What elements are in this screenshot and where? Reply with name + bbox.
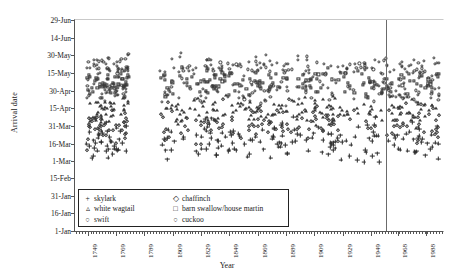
x-minor-tick <box>326 231 327 234</box>
data-point-white-wagtail <box>423 114 427 117</box>
data-point-white-wagtail <box>230 104 234 107</box>
data-point-chaffinch <box>267 122 271 126</box>
legend-item: □barn swallow/house martin <box>171 204 263 215</box>
data-point-cuckoo <box>395 89 398 92</box>
x-tick-label: 1889 <box>289 244 297 258</box>
data-point-white-wagtail <box>414 127 418 130</box>
data-point-skylark <box>209 138 213 139</box>
data-point-barn-swallow-house-martin <box>91 91 94 94</box>
x-minor-tick <box>359 231 360 234</box>
data-point-white-wagtail <box>314 123 318 126</box>
x-minor-tick <box>85 231 86 234</box>
data-point-swift <box>290 68 293 71</box>
x-major-tick <box>371 231 372 236</box>
data-point-white-wagtail <box>197 113 201 116</box>
data-point-cuckoo <box>402 97 405 100</box>
data-point-swift <box>194 66 197 69</box>
x-minor-tick <box>150 231 151 234</box>
x-minor-tick <box>159 231 160 234</box>
x-minor-tick <box>198 231 199 234</box>
data-point-skylark <box>278 146 282 147</box>
data-point-barn-swallow-house-martin <box>219 68 222 71</box>
data-point-skylark <box>396 148 400 149</box>
data-point-skylark <box>408 131 412 132</box>
data-point-barn-swallow-house-martin <box>346 81 349 84</box>
data-point-chaffinch <box>307 127 311 131</box>
data-point-barn-swallow-house-martin <box>419 84 422 87</box>
data-point-swift <box>322 62 325 65</box>
x-minor-tick <box>328 231 329 234</box>
data-point-white-wagtail <box>223 113 227 116</box>
data-point-cuckoo <box>196 82 199 85</box>
data-point-skylark <box>393 138 397 139</box>
y-tick-label: 16-Mar <box>49 139 72 148</box>
x-minor-tick <box>391 231 392 234</box>
data-point-cuckoo <box>87 78 90 81</box>
x-minor-tick <box>156 231 157 234</box>
data-point-barn-swallow-house-martin <box>223 75 226 78</box>
x-minor-tick <box>105 231 106 234</box>
data-point-swift <box>242 74 245 77</box>
x-minor-tick <box>345 231 346 234</box>
data-point-cuckoo <box>372 100 375 103</box>
data-point-white-wagtail <box>285 109 289 112</box>
data-point-barn-swallow-house-martin <box>342 75 345 78</box>
data-point-swift <box>126 69 129 72</box>
x-major-tick <box>229 231 230 236</box>
chart-root: Arrival date Year 1-Jan16-Jan31-Jan15-Fe… <box>0 0 454 280</box>
data-point-cuckoo <box>177 96 180 99</box>
x-minor-tick <box>76 231 77 234</box>
data-point-chaffinch <box>186 128 190 132</box>
data-point-chaffinch <box>336 114 340 118</box>
x-minor-tick <box>357 231 358 234</box>
x-tick-label: 1949 <box>374 244 382 258</box>
data-point-white-wagtail <box>259 114 263 117</box>
data-point-white-wagtail <box>193 107 197 110</box>
data-point-barn-swallow-house-martin <box>314 90 317 93</box>
x-minor-tick <box>204 231 205 234</box>
data-point-barn-swallow-house-martin <box>207 67 210 70</box>
data-point-swift <box>305 58 308 61</box>
x-minor-tick <box>153 231 154 234</box>
data-point-cuckoo <box>286 89 289 92</box>
x-minor-tick <box>419 231 420 234</box>
x-minor-tick <box>413 231 414 234</box>
data-point-swift <box>353 62 356 65</box>
data-point-chaffinch <box>199 123 203 127</box>
data-point-skylark <box>248 139 252 140</box>
data-point-white-wagtail <box>327 104 331 107</box>
data-point-swift <box>107 57 110 60</box>
x-minor-tick <box>139 231 140 234</box>
x-minor-tick <box>422 231 423 234</box>
data-point-skylark <box>414 151 418 152</box>
data-point-barn-swallow-house-martin <box>219 77 222 80</box>
data-point-chaffinch <box>266 130 270 134</box>
x-minor-tick <box>393 231 394 234</box>
y-axis-title: Arrival date <box>10 73 19 153</box>
data-point-chaffinch <box>434 118 438 122</box>
data-point-chaffinch <box>398 125 402 129</box>
data-point-chaffinch <box>104 133 108 137</box>
x-minor-tick <box>190 231 191 234</box>
data-point-skylark <box>91 140 95 141</box>
data-point-skylark <box>404 133 408 134</box>
x-minor-tick <box>99 231 100 234</box>
data-point-skylark <box>326 154 330 155</box>
legend-marker-icon: ○ <box>83 215 92 224</box>
x-minor-tick <box>209 231 210 234</box>
x-minor-tick <box>408 231 409 234</box>
data-point-swift <box>187 70 190 73</box>
data-point-barn-swallow-house-martin <box>87 73 90 76</box>
legend-marker-icon: □ <box>171 204 180 213</box>
x-minor-tick <box>275 231 276 234</box>
data-point-cuckoo <box>353 97 356 100</box>
data-point-cuckoo <box>285 86 288 89</box>
data-point-skylark <box>247 154 251 155</box>
y-tick-label: 31-Jan <box>51 191 71 200</box>
data-point-skylark <box>219 145 223 146</box>
x-major-tick <box>144 231 145 236</box>
data-point-white-wagtail <box>270 114 274 117</box>
data-point-chaffinch <box>170 109 174 113</box>
data-point-barn-swallow-house-martin <box>178 74 181 77</box>
data-point-swift <box>307 71 310 74</box>
